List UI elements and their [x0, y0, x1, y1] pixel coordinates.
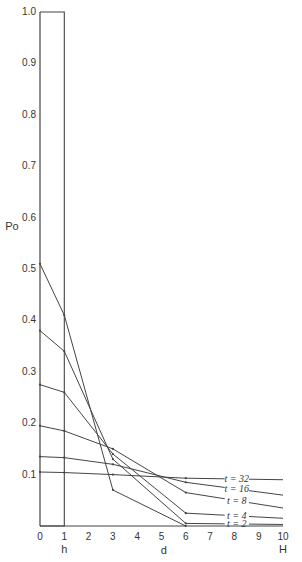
series-line-tail [249, 503, 283, 508]
data-point [39, 263, 41, 265]
data-point [185, 525, 187, 527]
data-point [39, 425, 41, 427]
y-tick-label: 0.6 [22, 212, 36, 223]
series-lines [39, 12, 283, 527]
axes [40, 12, 283, 526]
series-line [40, 264, 186, 526]
data-point [112, 474, 114, 476]
y-tick-label: 0.9 [22, 57, 36, 68]
data-point [185, 491, 187, 493]
series-line [40, 457, 225, 488]
data-point [63, 350, 65, 352]
x-tick-label: 1 [62, 531, 68, 542]
data-point [39, 330, 41, 332]
series-line-t0 [40, 12, 64, 526]
data-point [39, 384, 41, 386]
series-line-tail [249, 491, 283, 495]
series-line-tail [249, 479, 283, 480]
y-tick-label: 0.2 [22, 417, 36, 428]
data-point [112, 448, 114, 450]
y-tick-label: 1.0 [22, 6, 36, 17]
x-tick-label: 7 [207, 531, 213, 542]
series-label: t = 32 [225, 473, 250, 484]
series-line-tail [249, 516, 283, 518]
x-tick-label: 0 [37, 531, 43, 542]
data-point [112, 463, 114, 465]
series-label: t = 4 [227, 510, 247, 521]
data-point [185, 477, 187, 479]
y-tick-label: 0.4 [22, 314, 36, 325]
series-line [40, 426, 225, 499]
chart: 0123456789100.10.20.30.40.50.60.70.80.91… [0, 0, 302, 562]
series-label: t = 8 [227, 495, 247, 506]
data-point [63, 430, 65, 432]
x-tick-label: 10 [277, 531, 289, 542]
data-point [63, 391, 65, 393]
data-point [63, 457, 65, 459]
data-point [185, 522, 187, 524]
series-label: t = 16 [225, 483, 250, 494]
y-tick-label: 0.1 [22, 469, 36, 480]
data-point [112, 458, 114, 460]
data-point [185, 512, 187, 514]
data-point [112, 453, 114, 455]
data-point [39, 456, 41, 458]
y-axis-label: Po [5, 220, 18, 232]
x-annotation: h [61, 543, 67, 555]
y-tick-label: 0.8 [22, 109, 36, 120]
x-annotation: H [279, 543, 287, 555]
x-tick-label: 6 [183, 531, 189, 542]
series-line [40, 472, 225, 479]
data-point [63, 471, 65, 473]
x-tick-label: 3 [110, 531, 116, 542]
x-axis-label: d [161, 544, 167, 556]
data-point [185, 481, 187, 483]
data-point [39, 471, 41, 473]
x-tick-label: 2 [86, 531, 92, 542]
y-tick-label: 0.3 [22, 366, 36, 377]
data-point [112, 489, 114, 491]
x-tick-label: 4 [134, 531, 140, 542]
y-tick-label: 0.7 [22, 160, 36, 171]
y-tick-label: 0.5 [22, 263, 36, 274]
data-point [63, 314, 65, 316]
x-tick-label: 9 [256, 531, 262, 542]
series-line [40, 385, 225, 516]
x-tick-label: 8 [232, 531, 238, 542]
x-tick-label: 5 [159, 531, 165, 542]
